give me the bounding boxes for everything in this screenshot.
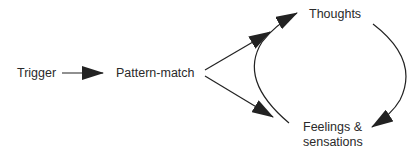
- node-trigger: Trigger: [17, 66, 56, 81]
- edge-feelings-to-thoughts-arc: [254, 13, 297, 123]
- edge-pattern-match-to-feelings: [205, 76, 273, 117]
- edge-pattern-match-to-thoughts: [205, 32, 270, 70]
- node-pattern-match: Pattern-match: [116, 66, 195, 81]
- edge-thoughts-to-feelings-arc: [372, 24, 406, 127]
- diagram-canvas: Trigger Pattern-match Thoughts Feelings …: [0, 0, 420, 159]
- node-thoughts: Thoughts: [309, 7, 361, 22]
- node-feelings-line1: Feelings &: [303, 120, 363, 135]
- node-feelings-line2: sensations: [303, 135, 363, 150]
- node-feelings-sensations: Feelings & sensations: [303, 120, 363, 150]
